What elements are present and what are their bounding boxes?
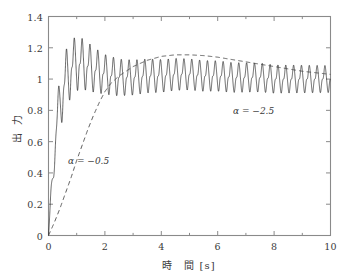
x-tick-label: 4 [158,241,164,252]
x-tick-label: 6 [215,241,221,252]
y-tick-label: 0.2 [10,199,43,210]
y-axis-label: 出 力 [9,113,24,142]
x-tick-label: 8 [271,241,277,252]
figure-chart: 00.20.40.60.811.21.40246810 出 力 時 間 [s] … [0,0,348,279]
series-annotation-alpha-0-5: α = −0.5 [68,156,109,166]
plot-canvas [0,0,348,279]
series-line-alpha-0-5 [49,55,331,236]
series-line-alpha-2-5 [49,38,331,236]
y-tick-label: 0.4 [10,167,43,178]
series-annotation-alpha-2-5: α = −2.5 [233,106,274,116]
x-tick-label: 10 [324,241,337,252]
y-tick-label: 0 [10,230,43,241]
y-tick-label: 1.4 [10,11,43,22]
y-tick-label: 1 [10,74,43,85]
x-axis-label: 時 間 [s] [162,257,215,272]
x-tick-label: 0 [45,241,51,252]
x-tick-label: 2 [102,241,108,252]
y-tick-label: 1.2 [10,42,43,53]
